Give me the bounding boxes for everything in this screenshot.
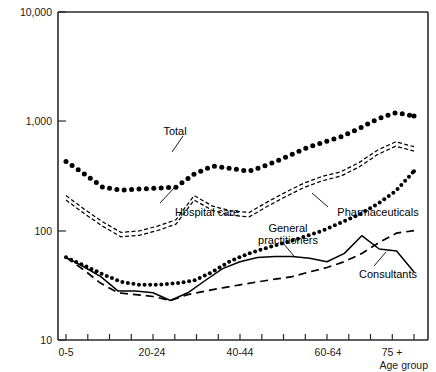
series-dot bbox=[333, 223, 337, 227]
series-dot bbox=[100, 184, 105, 189]
series-dot bbox=[352, 128, 357, 133]
series-stroke bbox=[66, 142, 414, 233]
series-dot bbox=[148, 283, 152, 287]
series-dot bbox=[290, 152, 295, 157]
series-dot bbox=[105, 274, 109, 278]
chart-container: 10,000 1,000 100 10 0-5 20-24 40-44 60-6… bbox=[0, 0, 436, 372]
series-dot bbox=[296, 149, 301, 154]
series-label-total: Total bbox=[163, 125, 186, 137]
series-dot bbox=[338, 221, 342, 225]
x-tick-label-20-24: 20-24 bbox=[139, 346, 166, 358]
series-dot bbox=[173, 185, 178, 190]
series-dot bbox=[187, 279, 191, 283]
series-dot bbox=[407, 175, 411, 179]
series-label-general-practitioners-line1: General bbox=[268, 222, 307, 234]
series-dot bbox=[100, 272, 104, 276]
series-dot bbox=[276, 158, 281, 163]
series-dot bbox=[243, 253, 247, 257]
series-dot bbox=[107, 186, 112, 191]
series-dot bbox=[179, 180, 184, 185]
series-dot bbox=[208, 271, 212, 275]
series-dot bbox=[283, 155, 288, 160]
series-dot bbox=[165, 282, 169, 286]
series-dot bbox=[403, 179, 407, 183]
series-dot bbox=[131, 282, 135, 286]
series-dot bbox=[378, 200, 382, 204]
series-dot bbox=[412, 113, 417, 118]
series-dot bbox=[94, 180, 99, 185]
series-dot bbox=[110, 276, 114, 280]
y-tick-label-1000: 1,000 bbox=[26, 115, 52, 127]
series-dot bbox=[126, 281, 130, 285]
series-dot bbox=[137, 283, 141, 287]
series-dot bbox=[379, 115, 384, 120]
series-label-hospital-care: Hospital care bbox=[175, 206, 239, 218]
series-dot bbox=[154, 283, 158, 287]
series-dot bbox=[343, 219, 347, 223]
series-dot bbox=[317, 141, 322, 146]
series-dot bbox=[227, 260, 231, 264]
series-dot bbox=[323, 228, 327, 232]
x-axis-title: Age group bbox=[380, 359, 429, 371]
series-dot bbox=[399, 183, 403, 187]
series-dot bbox=[407, 113, 412, 118]
consultants-leader bbox=[374, 252, 386, 266]
series-dot bbox=[166, 185, 171, 190]
log-line-chart: 10,000 1,000 100 10 0-5 20-24 40-44 60-6… bbox=[0, 0, 436, 372]
series-dot bbox=[232, 257, 236, 261]
series-dot bbox=[391, 191, 395, 195]
series-dot bbox=[372, 118, 377, 123]
series-dot bbox=[237, 255, 241, 259]
series-label-pharmaceuticals: Pharmaceuticals bbox=[337, 206, 419, 218]
series-dot bbox=[387, 194, 391, 198]
series-label-consultants: Consultants bbox=[359, 268, 418, 280]
series-dot bbox=[310, 143, 315, 148]
series-dot bbox=[400, 111, 405, 116]
series-dot bbox=[359, 125, 364, 130]
series-dot bbox=[185, 176, 190, 181]
series-dot bbox=[248, 168, 253, 173]
series-stroke bbox=[66, 231, 414, 301]
series-dot bbox=[412, 169, 416, 173]
y-tick-label-10000: 10,000 bbox=[20, 6, 52, 18]
series-dot bbox=[70, 163, 75, 168]
series-dot bbox=[219, 165, 224, 170]
series-dot bbox=[122, 187, 127, 192]
series-dot bbox=[88, 176, 93, 181]
series-dot bbox=[269, 161, 274, 166]
series-dot bbox=[248, 251, 252, 255]
series-dot bbox=[253, 249, 257, 253]
series-dot bbox=[222, 263, 226, 267]
series-dot bbox=[396, 187, 400, 191]
series-dot bbox=[338, 134, 343, 139]
series-dot bbox=[198, 169, 203, 174]
series-dot bbox=[328, 226, 332, 230]
series-dot bbox=[114, 187, 119, 192]
series-dot bbox=[176, 281, 180, 285]
series-dot bbox=[331, 137, 336, 142]
series-dot bbox=[82, 171, 87, 176]
x-tick-label-75plus: 75 + bbox=[382, 346, 403, 358]
series-dot bbox=[393, 110, 398, 115]
series-dot bbox=[115, 278, 119, 282]
total-leader bbox=[172, 136, 183, 152]
series-dot bbox=[76, 167, 81, 172]
series-dot bbox=[262, 163, 267, 168]
series-dot bbox=[303, 146, 308, 151]
x-tick-label-0-5: 0-5 bbox=[58, 346, 73, 358]
series-dot bbox=[151, 186, 156, 191]
series-dot bbox=[182, 280, 186, 284]
series-dot bbox=[258, 248, 262, 252]
x-tick-label-60-64: 60-64 bbox=[315, 346, 342, 358]
series-dot bbox=[203, 274, 207, 278]
y-tick-label-100: 100 bbox=[34, 225, 52, 237]
series-dot bbox=[193, 278, 197, 282]
series-dot bbox=[234, 167, 239, 172]
series-dot bbox=[227, 166, 232, 171]
series-dot bbox=[170, 282, 174, 286]
series-dot bbox=[159, 185, 164, 190]
series-dot bbox=[264, 246, 268, 250]
series-dot bbox=[143, 283, 147, 287]
series-dot bbox=[205, 166, 210, 171]
pharmaceuticals-leader bbox=[312, 193, 328, 207]
